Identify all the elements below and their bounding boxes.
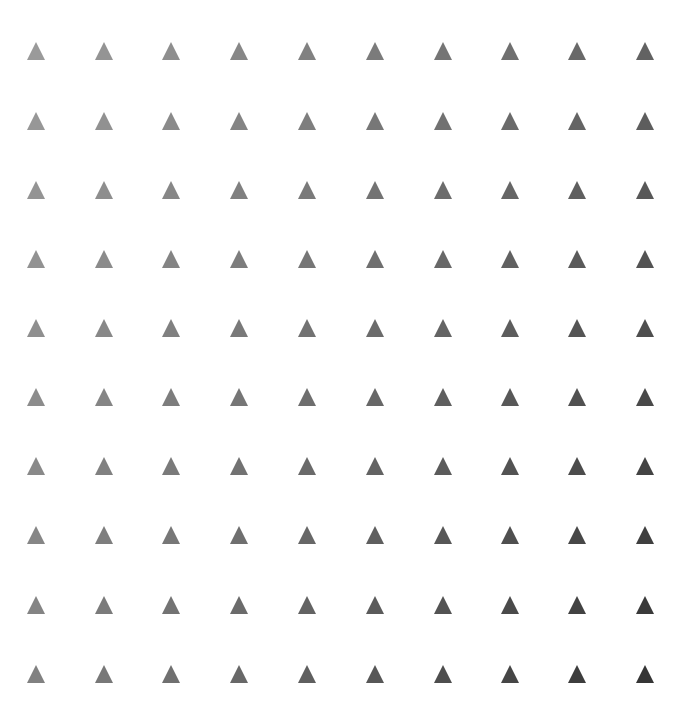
triangle-marker bbox=[230, 42, 248, 60]
triangle-marker bbox=[298, 526, 316, 544]
triangle-marker bbox=[27, 181, 45, 199]
triangle-marker bbox=[501, 42, 519, 60]
triangle-marker bbox=[27, 388, 45, 406]
triangle-marker bbox=[298, 596, 316, 614]
triangle-marker bbox=[366, 526, 384, 544]
triangle-marker bbox=[298, 181, 316, 199]
triangle-marker bbox=[434, 181, 452, 199]
triangle-marker bbox=[568, 112, 586, 130]
triangle-marker bbox=[568, 42, 586, 60]
triangle-marker bbox=[298, 457, 316, 475]
triangle-marker bbox=[366, 457, 384, 475]
triangle-marker bbox=[95, 526, 113, 544]
triangle-marker bbox=[95, 112, 113, 130]
triangle-marker bbox=[95, 250, 113, 268]
triangle-marker bbox=[434, 42, 452, 60]
triangle-marker bbox=[434, 457, 452, 475]
triangle-marker bbox=[298, 319, 316, 337]
triangle-marker bbox=[162, 596, 180, 614]
triangle-marker bbox=[162, 665, 180, 683]
triangle-marker bbox=[27, 526, 45, 544]
triangle-marker bbox=[636, 665, 654, 683]
triangle-marker bbox=[298, 250, 316, 268]
triangle-marker bbox=[27, 457, 45, 475]
triangle-marker bbox=[636, 112, 654, 130]
triangle-grid bbox=[0, 0, 700, 724]
triangle-marker bbox=[434, 526, 452, 544]
triangle-marker bbox=[366, 112, 384, 130]
triangle-marker bbox=[162, 42, 180, 60]
triangle-marker bbox=[636, 181, 654, 199]
triangle-marker bbox=[162, 250, 180, 268]
triangle-marker bbox=[27, 319, 45, 337]
triangle-marker bbox=[636, 250, 654, 268]
triangle-marker bbox=[434, 250, 452, 268]
triangle-marker bbox=[298, 42, 316, 60]
triangle-marker bbox=[636, 42, 654, 60]
triangle-marker bbox=[434, 388, 452, 406]
triangle-marker bbox=[568, 457, 586, 475]
triangle-marker bbox=[27, 596, 45, 614]
triangle-marker bbox=[568, 181, 586, 199]
triangle-marker bbox=[366, 665, 384, 683]
triangle-marker bbox=[568, 596, 586, 614]
triangle-marker bbox=[95, 388, 113, 406]
triangle-marker bbox=[162, 319, 180, 337]
triangle-marker bbox=[366, 596, 384, 614]
triangle-marker bbox=[568, 388, 586, 406]
triangle-marker bbox=[501, 665, 519, 683]
triangle-marker bbox=[636, 457, 654, 475]
triangle-marker bbox=[230, 319, 248, 337]
triangle-marker bbox=[434, 112, 452, 130]
triangle-marker bbox=[95, 665, 113, 683]
triangle-marker bbox=[230, 596, 248, 614]
triangle-marker bbox=[568, 319, 586, 337]
triangle-marker bbox=[230, 112, 248, 130]
triangle-marker bbox=[636, 319, 654, 337]
triangle-marker bbox=[434, 319, 452, 337]
triangle-marker bbox=[568, 665, 586, 683]
triangle-marker bbox=[95, 596, 113, 614]
triangle-marker bbox=[95, 319, 113, 337]
triangle-marker bbox=[501, 319, 519, 337]
triangle-marker bbox=[636, 388, 654, 406]
triangle-marker bbox=[636, 526, 654, 544]
triangle-marker bbox=[95, 457, 113, 475]
triangle-marker bbox=[568, 526, 586, 544]
triangle-marker bbox=[501, 526, 519, 544]
triangle-marker bbox=[162, 112, 180, 130]
triangle-marker bbox=[230, 181, 248, 199]
triangle-marker bbox=[230, 388, 248, 406]
triangle-marker bbox=[434, 665, 452, 683]
triangle-marker bbox=[298, 665, 316, 683]
triangle-marker bbox=[501, 112, 519, 130]
triangle-marker bbox=[27, 112, 45, 130]
triangle-marker bbox=[230, 526, 248, 544]
triangle-marker bbox=[501, 596, 519, 614]
triangle-marker bbox=[162, 388, 180, 406]
triangle-marker bbox=[27, 665, 45, 683]
triangle-marker bbox=[298, 388, 316, 406]
triangle-marker bbox=[162, 181, 180, 199]
triangle-marker bbox=[230, 665, 248, 683]
triangle-marker bbox=[501, 250, 519, 268]
triangle-marker bbox=[366, 250, 384, 268]
triangle-marker bbox=[366, 42, 384, 60]
triangle-marker bbox=[27, 42, 45, 60]
triangle-marker bbox=[434, 596, 452, 614]
triangle-marker bbox=[636, 596, 654, 614]
triangle-marker bbox=[366, 181, 384, 199]
triangle-marker bbox=[366, 319, 384, 337]
triangle-marker bbox=[230, 250, 248, 268]
triangle-marker bbox=[568, 250, 586, 268]
triangle-marker bbox=[501, 457, 519, 475]
triangle-marker bbox=[230, 457, 248, 475]
triangle-marker bbox=[162, 457, 180, 475]
triangle-marker bbox=[501, 181, 519, 199]
triangle-marker bbox=[501, 388, 519, 406]
triangle-marker bbox=[95, 181, 113, 199]
triangle-marker bbox=[298, 112, 316, 130]
triangle-marker bbox=[366, 388, 384, 406]
triangle-marker bbox=[27, 250, 45, 268]
triangle-marker bbox=[162, 526, 180, 544]
